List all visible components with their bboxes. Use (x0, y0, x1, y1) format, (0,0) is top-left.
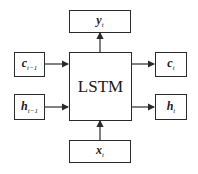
h-label: ht (167, 99, 176, 115)
input-x-box: xt (69, 140, 131, 163)
h-prev-label: ht−1 (21, 99, 38, 115)
output-h-box: ht (155, 94, 187, 120)
output-y-box: yt (69, 10, 131, 33)
input-c-prev-box: ct−1 (14, 52, 45, 77)
y-label: yt (96, 13, 103, 29)
x-label: xt (96, 143, 104, 159)
input-h-prev-box: ht−1 (14, 94, 45, 120)
c-label: ct (167, 56, 174, 72)
lstm-label: LSTM (78, 77, 123, 97)
output-c-box: ct (155, 52, 187, 77)
lstm-cell-box: LSTM (69, 52, 132, 121)
c-prev-label: ct−1 (22, 56, 38, 72)
